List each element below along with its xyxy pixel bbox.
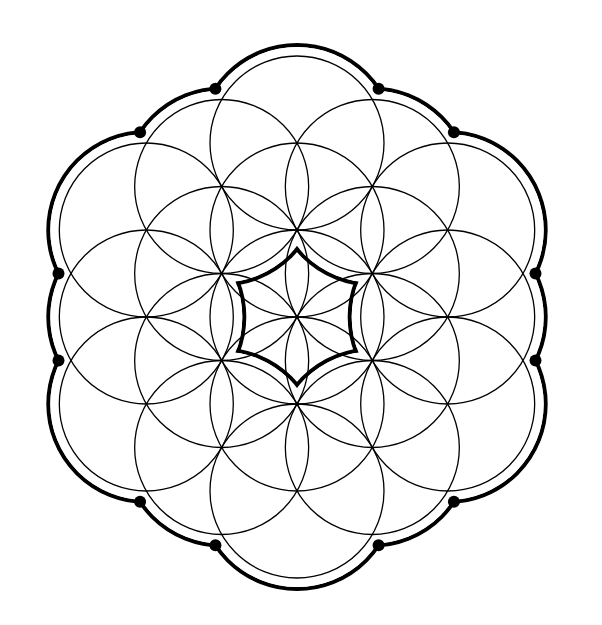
- junction-dot: [530, 355, 542, 367]
- junction-dot: [530, 268, 542, 280]
- flower-of-life-diagram: [0, 0, 602, 625]
- junction-dot: [448, 496, 460, 508]
- junction-dot: [209, 539, 221, 551]
- junction-dot: [134, 126, 146, 138]
- junction-dot: [373, 83, 385, 95]
- junction-dot: [373, 539, 385, 551]
- junction-dot: [134, 496, 146, 508]
- junction-dot: [53, 268, 65, 280]
- junction-dot: [448, 126, 460, 138]
- junction-dot: [53, 355, 65, 367]
- junction-dot: [209, 83, 221, 95]
